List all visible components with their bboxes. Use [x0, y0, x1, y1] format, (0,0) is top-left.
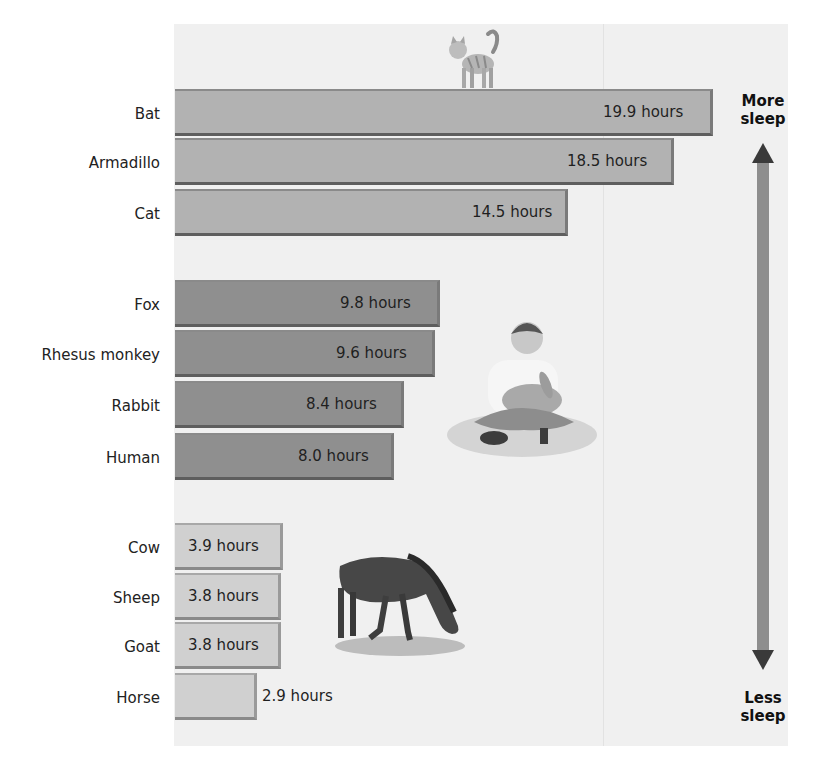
- category-label-fox: Fox: [0, 280, 160, 330]
- value-label-bat: 19.9 hours: [603, 89, 683, 136]
- less-text: Less: [733, 689, 793, 707]
- sleep-text: sleep: [733, 707, 793, 725]
- arrow-up-icon: [752, 143, 774, 163]
- category-label-bat: Bat: [0, 89, 160, 139]
- category-label-armadillo: Armadillo: [0, 138, 160, 188]
- value-label-fox: 9.8 hours: [340, 280, 411, 327]
- value-label-goat: 3.8 hours: [188, 622, 259, 669]
- cat-illustration: [440, 28, 510, 90]
- grazing-horse-illustration: [320, 548, 470, 660]
- more-text: More: [733, 92, 793, 110]
- category-label-sheep: Sheep: [0, 573, 160, 623]
- value-label-cat: 14.5 hours: [472, 189, 552, 236]
- bar-horse: [175, 673, 257, 720]
- double-arrow-shaft: [757, 160, 769, 656]
- category-label-human: Human: [0, 433, 160, 483]
- arrow-down-icon: [752, 650, 774, 670]
- value-label-rhesus-monkey: 9.6 hours: [336, 330, 407, 377]
- category-label-cow: Cow: [0, 523, 160, 573]
- value-label-cow: 3.9 hours: [188, 523, 259, 570]
- value-label-horse: 2.9 hours: [262, 673, 333, 720]
- less-sleep-label: Less sleep: [733, 689, 793, 725]
- category-label-horse: Horse: [0, 673, 160, 723]
- category-label-rhesus-monkey: Rhesus monkey: [0, 330, 160, 380]
- boy-with-rabbit-illustration: [444, 310, 600, 460]
- sleep-text: sleep: [733, 110, 793, 128]
- category-label-goat: Goat: [0, 622, 160, 672]
- value-label-rabbit: 8.4 hours: [306, 381, 377, 428]
- value-label-armadillo: 18.5 hours: [567, 138, 647, 185]
- category-label-rabbit: Rabbit: [0, 381, 160, 431]
- value-label-human: 8.0 hours: [298, 433, 369, 480]
- value-label-sheep: 3.8 hours: [188, 573, 259, 620]
- category-label-cat: Cat: [0, 189, 160, 239]
- more-sleep-label: More sleep: [733, 92, 793, 128]
